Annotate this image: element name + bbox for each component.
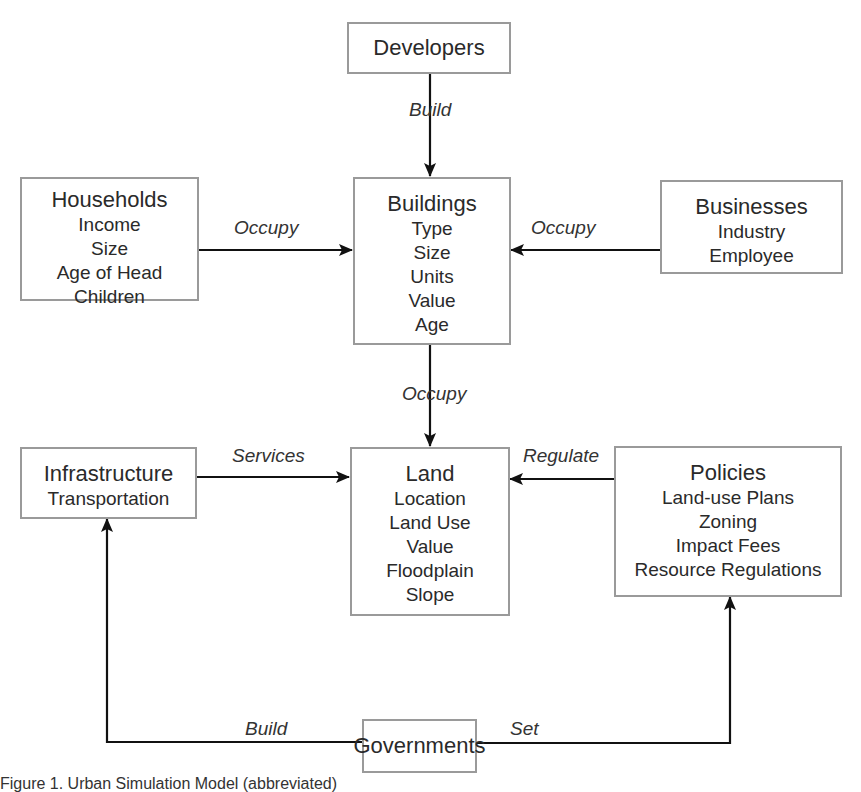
- node-developers: Developers: [347, 22, 511, 74]
- edge-label-regulate: Regulate: [523, 445, 599, 467]
- node-attribute: Value: [406, 535, 453, 559]
- arrow-governments-infrastructure: [107, 519, 362, 742]
- node-title: Businesses: [695, 194, 808, 220]
- node-attribute: Age: [415, 313, 449, 337]
- node-attribute: Industry: [718, 220, 786, 244]
- node-title: Infrastructure: [44, 461, 174, 487]
- node-buildings: Buildings Type Size Units Value Age: [353, 177, 511, 345]
- node-attribute: Children: [74, 285, 145, 309]
- figure-caption: Figure 1. Urban Simulation Model (abbrev…: [0, 775, 337, 792]
- edge-label-occupy-buildings: Occupy: [402, 383, 466, 405]
- node-attribute: Age of Head: [57, 261, 163, 285]
- node-attribute: Employee: [709, 244, 794, 268]
- node-title: Policies: [690, 460, 766, 486]
- node-attribute: Type: [411, 217, 452, 241]
- node-attribute: Size: [91, 237, 128, 261]
- node-households: Households Income Size Age of Head Child…: [20, 177, 199, 301]
- node-attribute: Income: [78, 213, 140, 237]
- edge-label-build-developers: Build: [409, 99, 451, 121]
- node-businesses: Businesses Industry Employee: [660, 180, 843, 274]
- node-attribute: Zoning: [699, 510, 757, 534]
- node-title: Households: [51, 187, 167, 213]
- node-attribute: Units: [410, 265, 453, 289]
- node-title: Land: [406, 461, 455, 487]
- node-attribute: Value: [408, 289, 455, 313]
- node-policies: Policies Land-use Plans Zoning Impact Fe…: [614, 446, 842, 597]
- node-governments: Governments: [362, 719, 477, 773]
- node-attribute: Impact Fees: [676, 534, 781, 558]
- node-attribute: Resource Regulations: [635, 558, 822, 582]
- node-attribute: Floodplain: [386, 559, 474, 583]
- node-title: Developers: [373, 35, 484, 61]
- node-title: Governments: [353, 733, 485, 759]
- edge-label-set: Set: [510, 718, 539, 740]
- node-attribute: Slope: [406, 583, 455, 607]
- node-attribute: Size: [414, 241, 451, 265]
- edge-label-occupy-households: Occupy: [234, 217, 298, 239]
- node-attribute: Land Use: [389, 511, 470, 535]
- node-infrastructure: Infrastructure Transportation: [20, 447, 197, 519]
- node-land: Land Location Land Use Value Floodplain …: [350, 447, 510, 616]
- edge-label-services: Services: [232, 445, 305, 467]
- node-attribute: Transportation: [48, 487, 170, 511]
- node-attribute: Location: [394, 487, 466, 511]
- node-title: Buildings: [387, 191, 476, 217]
- edge-label-occupy-businesses: Occupy: [531, 217, 595, 239]
- node-attribute: Land-use Plans: [662, 486, 794, 510]
- edge-label-build-governments: Build: [245, 718, 287, 740]
